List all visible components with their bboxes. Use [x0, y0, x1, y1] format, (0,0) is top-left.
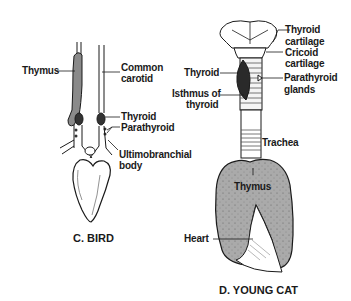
label-cat-thyroid-cartilage-2: cartilage	[285, 37, 324, 47]
label-cat-parathyroid-glands-1: Parathyroid	[284, 73, 337, 83]
label-bird-thymus: Thymus	[22, 66, 59, 76]
bird-common-carotid	[99, 45, 104, 113]
cat-trachea-lower	[241, 110, 261, 158]
label-bird-common-carotid-2: carotid	[121, 74, 153, 84]
bird-diagram	[56, 42, 120, 222]
caption-young-cat: D. YOUNG CAT	[219, 284, 298, 296]
label-cat-cricoid-cartilage-1: Cricoid	[285, 48, 318, 58]
leader-bird-parathyroid	[107, 127, 120, 133]
bird-thyroid-left	[75, 113, 83, 125]
label-bird-ultimobranchial-1: Ultimobranchial	[119, 150, 192, 160]
label-bird-parathyroid: Parathyroid	[121, 123, 174, 133]
cat-cricoid-cartilage	[234, 48, 266, 58]
label-cat-parathyroid-glands-2: glands	[284, 85, 315, 95]
bird-thyroid-right	[97, 113, 105, 125]
label-cat-trachea: Trachea	[262, 138, 298, 148]
bird-parathyroid-left-2	[75, 135, 78, 138]
label-cat-thymus: Thymus	[234, 182, 271, 192]
label-cat-isthmus-2: thyroid	[186, 100, 219, 110]
label-bird-common-carotid-1: Common	[121, 63, 163, 73]
cat-thyroid-cartilage	[220, 21, 277, 48]
label-cat-thyroid-cartilage-1: Thyroid	[285, 25, 320, 35]
bird-parathyroid-left	[75, 129, 78, 132]
label-bird-ultimobranchial-2: body	[119, 161, 142, 171]
caption-bird: C. BIRD	[73, 232, 114, 244]
bird-heart	[73, 160, 111, 222]
label-bird-thyroid: Thyroid	[121, 112, 156, 122]
label-cat-isthmus-1: Isthmus of	[172, 89, 221, 99]
leader-bird-ultimobranchial	[108, 140, 118, 150]
label-cat-cricoid-cartilage-2: cartilage	[285, 59, 324, 69]
label-cat-heart: Heart	[184, 234, 209, 244]
label-cat-thyroid: Thyroid	[184, 68, 219, 78]
bird-aortic-arch	[85, 147, 95, 155]
